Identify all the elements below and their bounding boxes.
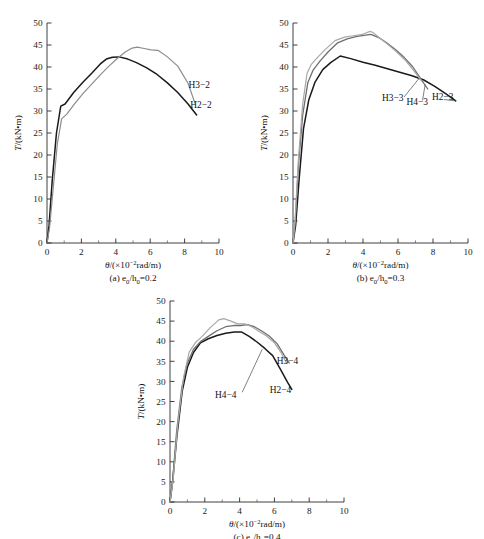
y-tick-label: 50 — [156, 296, 166, 306]
y-tick-label: 25 — [33, 128, 43, 138]
x-tick-label: 4 — [114, 247, 119, 257]
leader-line-H3-3 — [404, 78, 419, 96]
series-line-H3-4 — [170, 319, 287, 502]
y-tick-label: 5 — [284, 216, 289, 226]
x-tick-label: 0 — [45, 247, 50, 257]
y-tick-label: 30 — [279, 106, 289, 116]
x-tick-label: 2 — [326, 247, 331, 257]
x-axis-title: θ/(×10−2rad/m) — [229, 518, 285, 529]
y-tick-label: 10 — [279, 194, 289, 204]
series-line-H4-4 — [170, 325, 289, 502]
x-tick-label: 8 — [182, 247, 187, 257]
curve-label-H3-2: H3−2 — [189, 80, 211, 90]
x-tick-label: 0 — [168, 506, 173, 516]
x-tick-label: 4 — [361, 247, 366, 257]
y-tick-label: 45 — [279, 40, 289, 50]
x-axis-title: θ/(×10−2rad/m) — [352, 259, 408, 270]
y-tick-label: 20 — [156, 417, 166, 427]
y-tick-label: 30 — [33, 106, 43, 116]
y-tick-label: 40 — [156, 336, 166, 346]
x-tick-label: 0 — [291, 247, 296, 257]
chart-panel-c: 024681005101520253035404550H2−4H4−4H3−4θ… — [118, 284, 370, 539]
series-line-H3-2 — [47, 47, 195, 243]
curve-label-H2-2: H2−2 — [190, 100, 212, 110]
y-axis-title: T/(kN•m) — [13, 115, 23, 150]
curve-label-H4-3: H4−3 — [407, 97, 429, 107]
curve-label-H3-4: H3−4 — [277, 356, 299, 366]
series-line-H2-3 — [293, 56, 456, 243]
y-axis-title: T/(kN•m) — [136, 384, 146, 419]
axes-a: 024681005101520253035404550 — [33, 18, 224, 256]
figure-root: 024681005101520253035404550H2−2H3−2θ/(×1… — [0, 0, 484, 539]
chart-c: 024681005101520253035404550H2−4H4−4H3−4θ… — [118, 284, 370, 539]
x-tick-label: 4 — [237, 506, 242, 516]
curve-label-H2-4: H2−4 — [270, 385, 292, 395]
y-tick-label: 25 — [156, 397, 166, 407]
x-tick-label: 10 — [339, 506, 349, 516]
series-line-H3-3 — [293, 31, 422, 243]
x-tick-label: 6 — [272, 506, 277, 516]
y-tick-label: 20 — [33, 150, 43, 160]
x-tick-label: 10 — [463, 247, 473, 257]
y-tick-label: 30 — [156, 377, 166, 387]
y-tick-label: 15 — [156, 437, 166, 447]
y-tick-label: 20 — [279, 150, 289, 160]
x-tick-label: 6 — [148, 247, 153, 257]
y-tick-label: 25 — [279, 128, 289, 138]
chart-panel-b: 024681005101520253035404550H2−3H4−3H3−3θ… — [240, 4, 484, 280]
y-tick-label: 10 — [33, 194, 43, 204]
y-tick-label: 15 — [33, 172, 43, 182]
x-tick-label: 2 — [79, 247, 84, 257]
y-axis-title: T/(kN•m) — [259, 115, 269, 150]
curve-label-H4-4: H4−4 — [215, 390, 237, 400]
y-tick-label: 10 — [156, 457, 166, 467]
axes-b: 024681005101520253035404550 — [279, 18, 473, 256]
leader-line-H4-4 — [242, 349, 262, 392]
y-tick-label: 40 — [279, 62, 289, 72]
chart-b: 024681005101520253035404550H2−3H4−3H3−3θ… — [240, 4, 484, 280]
x-axis-title: θ/(×10−2rad/m) — [105, 259, 161, 270]
curve-label-H2-3: H2−3 — [432, 92, 454, 102]
panel-caption-c: (c) e0/h0=0.4 — [234, 532, 281, 539]
x-tick-label: 6 — [396, 247, 401, 257]
y-tick-label: 50 — [33, 18, 43, 28]
curve-label-H3-3: H3−3 — [382, 93, 404, 103]
y-tick-label: 0 — [161, 497, 166, 507]
y-tick-label: 45 — [156, 316, 166, 326]
y-tick-label: 35 — [33, 84, 43, 94]
y-tick-label: 15 — [279, 172, 289, 182]
chart-panel-a: 024681005101520253035404550H2−2H3−2θ/(×1… — [0, 4, 240, 280]
series-line-H2-2 — [47, 57, 197, 243]
y-tick-label: 5 — [38, 216, 43, 226]
x-tick-label: 8 — [431, 247, 436, 257]
y-tick-label: 50 — [279, 18, 289, 28]
y-tick-label: 35 — [279, 84, 289, 94]
y-tick-label: 35 — [156, 357, 166, 367]
panel-caption-b: (b) e0/h0=0.3 — [357, 273, 405, 285]
y-tick-label: 5 — [161, 477, 166, 487]
x-tick-label: 10 — [214, 247, 224, 257]
series-line-H4-3 — [293, 34, 428, 243]
y-tick-label: 45 — [33, 40, 43, 50]
y-tick-label: 0 — [38, 238, 43, 248]
y-tick-label: 40 — [33, 62, 43, 72]
chart-a: 024681005101520253035404550H2−2H3−2θ/(×1… — [0, 4, 240, 280]
panel-caption-a: (a) e0/h0=0.2 — [110, 273, 157, 285]
x-tick-label: 2 — [203, 506, 208, 516]
x-tick-label: 8 — [307, 506, 312, 516]
axes-c: 024681005101520253035404550 — [156, 296, 349, 515]
y-tick-label: 0 — [284, 238, 289, 248]
